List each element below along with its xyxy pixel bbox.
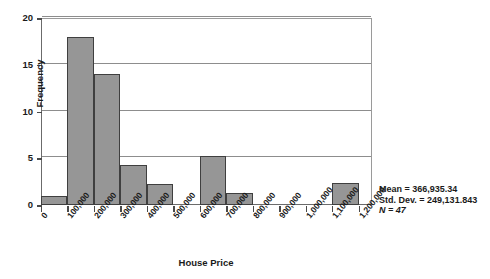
histogram-chart: 05101520 Frequency 0100,000200,000300,00… [0,0,490,279]
histogram-bar [67,37,93,205]
x-axis-title: House Price [0,257,412,268]
stat-n: N = 47 [379,205,490,216]
y-tick-label-15: 15 [7,60,33,70]
x-tick-label-0: 0 [39,210,50,220]
statistics-annotation: Mean = 366,935.34 Std. Dev. = 249,131.84… [379,184,490,216]
y-tick-label-5: 5 [7,153,33,163]
y-tick-label-0: 0 [7,200,33,210]
stat-std-dev: Std. Dev. = 249,131.843 [379,195,490,206]
histogram-bar [94,74,120,205]
histogram-bar [41,196,67,205]
stat-mean: Mean = 366,935.34 [379,184,490,195]
y-tick-label-20: 20 [7,13,33,23]
y-tick-label-10: 10 [7,107,33,117]
bars-layer [41,18,386,205]
gridline-y-20 [42,16,371,17]
